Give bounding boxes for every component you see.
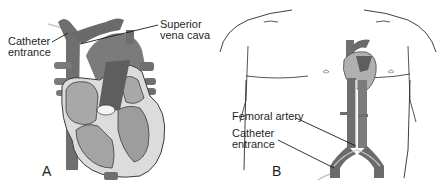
leader-line-catheter-entrance-b (278, 140, 334, 168)
label-femoral-artery: Femoral artery (232, 111, 304, 122)
label-catheter-entrance-a-line2: entrance (8, 47, 51, 58)
panel-a-heart: Catheter entrance Superior vena cava A (0, 0, 220, 183)
panel-b-torso: Femoral artery Catheter entrance B (218, 0, 438, 183)
panel-letter-b: B (272, 164, 281, 178)
torso-illustration (218, 0, 438, 183)
label-catheter-entrance-b-line2: entrance (232, 139, 275, 150)
label-superior-vena-cava-line2: vena cava (160, 30, 210, 41)
panel-letter-a: A (42, 164, 51, 178)
